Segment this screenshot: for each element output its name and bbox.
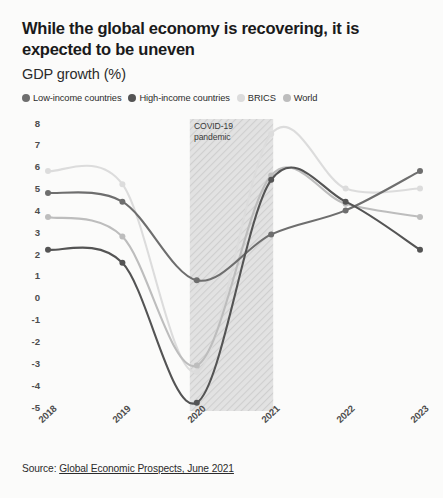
- data-point: [194, 369, 200, 375]
- data-point: [417, 168, 423, 174]
- chart-subtitle: GDP growth (%): [22, 66, 429, 82]
- line-chart-svg: 876543210-1-2-3-4-5: [22, 113, 426, 413]
- data-point: [194, 278, 200, 284]
- page-title: While the global economy is recovering, …: [22, 18, 392, 60]
- legend-item-low-income[interactable]: Low-income countries: [22, 93, 121, 103]
- svg-text:8: 8: [35, 118, 41, 129]
- chart-legend: Low-income countries High-income countri…: [22, 93, 429, 103]
- source-link[interactable]: Global Economic Prospects, June 2021: [59, 463, 234, 474]
- data-point: [119, 260, 125, 266]
- legend-swatch-icon: [128, 94, 136, 102]
- svg-text:2: 2: [35, 249, 40, 260]
- svg-text:5: 5: [35, 183, 41, 194]
- legend-item-high-income[interactable]: High-income countries: [128, 93, 229, 103]
- source-note: Source: Global Economic Prospects, June …: [22, 463, 429, 474]
- chart-container: While the global economy is recovering, …: [22, 18, 429, 488]
- data-point: [45, 190, 51, 196]
- svg-text:6: 6: [35, 161, 40, 172]
- legend-swatch-icon: [237, 94, 245, 102]
- data-point: [343, 199, 349, 205]
- y-axis-ticks: 876543210-1-2-3-4-5: [31, 118, 40, 413]
- legend-swatch-icon: [283, 94, 291, 102]
- data-point: [268, 177, 274, 183]
- svg-text:-3: -3: [31, 358, 40, 369]
- legend-label-high-income: High-income countries: [139, 93, 229, 103]
- legend-label-brics: BRICS: [248, 93, 276, 103]
- legend-item-brics[interactable]: BRICS: [237, 93, 276, 103]
- data-point: [343, 186, 349, 192]
- legend-label-world: World: [294, 93, 318, 103]
- data-point: [417, 214, 423, 220]
- legend-item-world[interactable]: World: [283, 93, 318, 103]
- source-prefix: Source:: [22, 463, 59, 474]
- chart-page: While the global economy is recovering, …: [0, 0, 443, 498]
- data-point: [194, 363, 200, 369]
- x-axis: 201820192020202120222023: [22, 413, 426, 459]
- data-point: [417, 247, 423, 253]
- data-point: [268, 131, 274, 137]
- data-point: [45, 247, 51, 253]
- data-point: [45, 168, 51, 174]
- data-point: [268, 232, 274, 238]
- svg-text:-2: -2: [31, 336, 40, 347]
- svg-text:-5: -5: [31, 402, 40, 413]
- svg-text:1: 1: [35, 271, 41, 282]
- data-point: [343, 208, 349, 214]
- data-point: [119, 199, 125, 205]
- svg-text:-1: -1: [31, 314, 40, 325]
- data-point: [45, 214, 51, 220]
- legend-label-low-income: Low-income countries: [33, 93, 121, 103]
- legend-swatch-icon: [22, 94, 30, 102]
- plot-area: 876543210-1-2-3-4-5 COVID-19 pandemic: [22, 113, 426, 413]
- svg-text:0: 0: [35, 292, 40, 303]
- data-point: [417, 186, 423, 192]
- svg-text:-4: -4: [31, 380, 40, 391]
- svg-text:3: 3: [35, 227, 40, 238]
- data-point: [119, 234, 125, 240]
- svg-text:4: 4: [35, 205, 41, 216]
- svg-text:7: 7: [35, 140, 40, 151]
- data-point: [119, 181, 125, 187]
